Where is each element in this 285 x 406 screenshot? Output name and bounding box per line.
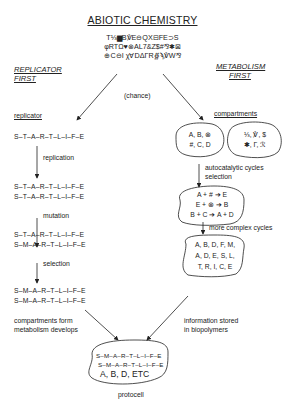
autocatalytic-label-1: autocatalytic cycles [205, 164, 264, 171]
page-title: ABIOTIC CHEMISTRY [0, 14, 285, 26]
complex-row-3: T, R, I, C, E [184, 262, 246, 272]
arrow-to-replicator [77, 74, 117, 120]
protocell-label: protocell [118, 391, 144, 398]
metabolism-first-heading-2: FIRST [229, 71, 251, 80]
metabolism-first-heading-1: METABOLISM [216, 62, 265, 71]
replicator-label: replicator [14, 112, 42, 119]
compartment-a-row-1: A, B, ⊗ [178, 130, 222, 140]
compartments-form-label-2: metabolism develops [14, 326, 78, 333]
compartments-form-label-1: compartments form [14, 317, 73, 324]
complex-row-1: A, B, D, F, M, [184, 240, 246, 250]
reaction-3: B + C ➔ A + D [180, 210, 244, 220]
more-complex-cycles-label: more complex cycles [209, 224, 272, 231]
reaction-1: A + # ➔ E [180, 190, 244, 200]
arrow-to-compartments [163, 74, 203, 120]
compartment-b-row-1: ⅓, ℣, $ [232, 130, 278, 140]
reaction-2: E + ⊗ ➔ B [180, 200, 244, 210]
sequence-replicated-2: S–T–A–R–T–L–I–F–E [14, 193, 84, 200]
sequence-start: S–T–A–R–T–L–I–F–E [14, 133, 84, 140]
symbol-row-2: φRTΩ♥⊗AL7&Z$#⅋✱⊠ [0, 42, 285, 51]
replicator-first-heading-2: FIRST [14, 74, 36, 83]
compartment-b-row-2: ✱, Γ, ℛ [232, 140, 278, 150]
information-stored-label-1: information stored [184, 317, 238, 324]
compartment-a-row-2: #, C, D [178, 140, 222, 150]
sequence-mutated-2: S–M–A–R–T–L–I–F–E [14, 241, 86, 248]
symbol-row-1: T⅓▆B℣E⊖QX⊟FE⊃S [0, 33, 285, 42]
symbol-row-3: ⊕C⊖I χ∀DΔΓR∯ϡ℣W⅋ [0, 51, 285, 60]
mutation-label: mutation [43, 212, 69, 219]
autocatalytic-label-2: selection [205, 173, 232, 180]
information-stored-label-2: in biopolymers [184, 326, 228, 333]
sequence-selected-1: S–M–A–R–T–L–I–F–E [14, 287, 86, 294]
complex-row-2: A, D, E, S, L, [184, 251, 246, 261]
compartments-label: compartments [214, 110, 257, 117]
sequence-mutated-1: S–T–A–R–T–L–I–F–E [14, 231, 84, 238]
protocell-contents: A, B, D, ETC [100, 369, 149, 379]
replicator-first-heading-1: REPLICATOR [14, 65, 62, 74]
chance-label: (chance) [124, 92, 150, 99]
sequence-replicated-1: S–T–A–R–T–L–I–F–E [14, 183, 84, 190]
protocell-seq-1: S–M–A–R–T–L–I–F–E [96, 352, 162, 359]
replication-label: replication [43, 154, 74, 161]
sequence-selected-2: S–M–A–R–T–L–I–F–E [14, 297, 86, 304]
protocell-seq-2: S–M–A–R–T–L–I–F–E [98, 361, 164, 368]
selection-label: selection [43, 260, 70, 267]
